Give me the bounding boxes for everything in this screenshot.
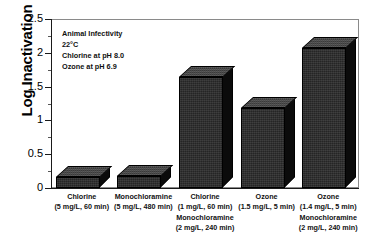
bar-front-face [179,77,223,188]
bar-front-face [117,176,161,188]
bar [56,166,100,188]
y-axis-tick-label: 0 [1,182,43,193]
x-axis-category-labels: Chlorine(5 mg/L, 60 min)Monochloramine(5… [51,192,359,244]
bar-side-face [222,66,233,188]
annotation-line-1: Animal Infectivity [62,28,124,39]
annotation-line-3: Chlorine at pH 8.0 [62,50,124,61]
x-label-line: (1.4 mg/L, 5 min) [289,202,367,212]
annotation-line-2: 22°C [62,39,124,50]
bar [179,66,223,188]
y-axis-tick-label: 2 [1,47,43,58]
bar-side-face [345,37,356,188]
y-axis-tick-label: 1.5 [1,81,43,92]
x-label-line: (2 mg/L, 240 min) [289,223,367,233]
x-axis-category-label: Ozone(1.4 mg/L, 5 min)Monochloramine(2 m… [289,192,367,234]
x-label-line: Monochloramine [166,213,244,223]
chart-container: Log Inactivation 2.521.510.50 Animal Inf… [0,0,379,245]
y-axis-tick-label: 1 [1,114,43,125]
bar [117,165,161,188]
y-axis-tick-label: 0.5 [1,148,43,159]
bar [241,97,285,188]
y-axis-tick-label: 2.5 [1,13,43,24]
chart-annotation: Animal Infectivity 22°C Chlorine at pH 8… [62,28,124,72]
annotation-line-4: Ozone at pH 6.9 [62,61,124,72]
x-axis-line [51,188,359,189]
bar-side-face [284,97,295,188]
x-label-line: Monochloramine [289,213,367,223]
bar-front-face [302,48,346,188]
x-label-line: Ozone [289,192,367,202]
bar-front-face [56,177,100,188]
y-axis-tick-labels: 2.521.510.50 [0,0,43,245]
bar [302,37,346,188]
x-label-line: (2 mg/L, 240 min) [166,223,244,233]
bar-front-face [241,108,285,188]
